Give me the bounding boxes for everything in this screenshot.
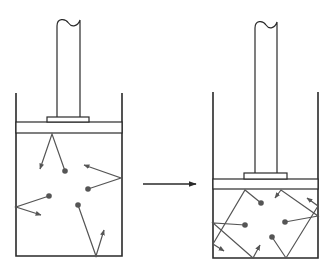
molecule-dot (62, 168, 68, 174)
molecule-trajectory (84, 165, 121, 189)
piston-rod (255, 22, 277, 173)
piston-block (244, 173, 287, 179)
molecule-trajectory (40, 134, 65, 171)
gas-compression-diagram (0, 0, 333, 277)
molecule-dot (258, 200, 264, 206)
molecule-dot (75, 202, 81, 208)
molecule-trajectory (213, 190, 261, 251)
molecule-dot (282, 219, 288, 225)
left-cylinder (16, 20, 122, 256)
molecule-dot (85, 186, 91, 192)
molecule-trajectory (272, 198, 318, 258)
molecule-dot (242, 222, 248, 228)
molecule-trajectory (78, 205, 104, 256)
molecule-trajectory (213, 223, 260, 258)
piston-plate (16, 122, 122, 133)
piston-block (47, 117, 89, 122)
right-cylinder (213, 22, 318, 258)
diagram-canvas (0, 0, 333, 277)
molecule-dot (269, 234, 275, 240)
piston-rod (57, 20, 80, 117)
piston-plate (213, 179, 318, 189)
molecule-dot (46, 193, 52, 199)
molecule-trajectory (16, 196, 49, 215)
